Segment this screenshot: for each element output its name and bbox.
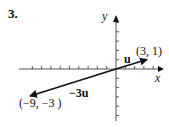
x-axis-label: x <box>154 71 161 85</box>
point-3-1-label: (3, 1) <box>136 44 162 58</box>
x-axis <box>19 66 164 72</box>
vector-diagram: x y u (3, 1) −3u (−9, −3 ) <box>0 0 169 127</box>
point-neg9-neg3-label: (−9, −3 ) <box>19 96 62 110</box>
y-axis-label: y <box>101 9 108 23</box>
vector-u-arrow <box>116 60 147 70</box>
vector-u-label: u <box>124 52 131 66</box>
y-axis-arrow-icon <box>113 15 119 22</box>
vector-neg3u-label: −3u <box>69 86 89 100</box>
